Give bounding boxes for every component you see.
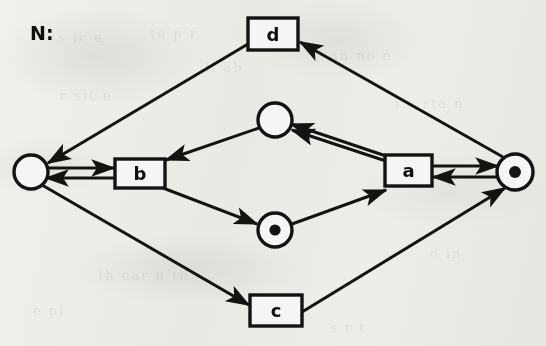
- transition-d: d: [248, 18, 298, 50]
- transition-b: b: [115, 159, 165, 188]
- arc: [292, 190, 386, 224]
- arc: [291, 124, 386, 156]
- place-layer: [14, 103, 533, 247]
- petri-net-canvas: dbac N:: [0, 0, 546, 346]
- place-right: [497, 154, 533, 190]
- transition-layer: dbac: [115, 18, 432, 326]
- arc: [48, 44, 248, 163]
- transition-c: c: [250, 295, 302, 326]
- place-middle-lower: [258, 213, 292, 247]
- arc-layer: [42, 42, 505, 312]
- place-circle: [14, 155, 48, 189]
- arc: [166, 128, 259, 160]
- place-middle-upper: [258, 103, 292, 137]
- transition-label: d: [267, 24, 280, 45]
- token-dot: [269, 224, 280, 235]
- transition-label: b: [134, 163, 147, 184]
- arc: [302, 188, 505, 312]
- transition-label: a: [402, 160, 414, 181]
- arc: [42, 185, 249, 305]
- transition-label: c: [271, 300, 282, 321]
- place-left: [14, 155, 48, 189]
- arc: [163, 188, 257, 224]
- place-circle: [258, 103, 292, 137]
- arc: [300, 42, 503, 157]
- petri-net-figure: s ic eto p rll abr sit nan no ei c rta n…: [0, 0, 546, 346]
- transition-a: a: [385, 155, 432, 186]
- token-dot: [509, 166, 521, 178]
- net-name-label: N:: [30, 22, 54, 44]
- arc: [292, 130, 392, 163]
